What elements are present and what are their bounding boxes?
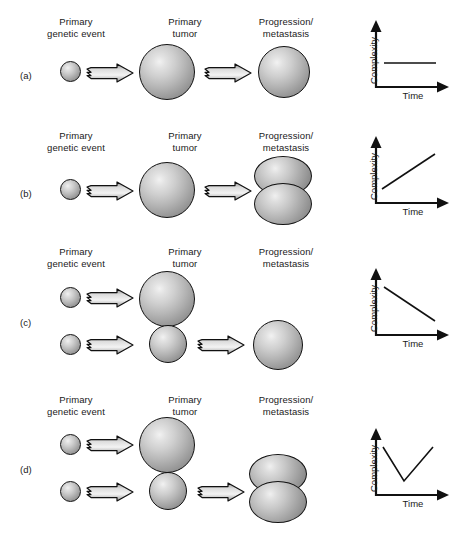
chart-panel-a: Complexity Time xyxy=(355,18,455,102)
panel-d: Primary genetic event Primary tumor Prog… xyxy=(0,378,458,530)
figure-cancer-progression-models: Primary genetic event Primary tumor Prog… xyxy=(0,0,458,540)
sphere-primary-genetic-event-lower xyxy=(60,481,81,502)
column-label-progression-metastasis: Progression/ metastasis xyxy=(231,130,341,153)
chart-y-axis-label-a: Complexity xyxy=(368,37,379,84)
chart-series-line-d xyxy=(383,447,433,481)
double-sphere-lower-lobe xyxy=(249,481,307,523)
sphere-primary-tumor-lower xyxy=(149,472,187,510)
sphere-primary-tumor-lower xyxy=(149,325,187,363)
chart-x-axis-label-d: Time xyxy=(383,498,443,509)
arrow-progression-lower-1 xyxy=(86,335,134,355)
chart-x-axis-label-c: Time xyxy=(383,338,443,349)
sphere-primary-genetic-event-upper xyxy=(60,287,81,308)
sphere-primary-genetic-event xyxy=(60,179,81,200)
sphere-progression-metastasis xyxy=(253,320,303,370)
arrow-progression-2 xyxy=(204,181,252,201)
column-label-progression-metastasis: Progression/ metastasis xyxy=(231,394,341,417)
column-label-primary-tumor: Primary tumor xyxy=(130,16,240,39)
arrow-progression-lower-1 xyxy=(86,482,134,502)
arrow-progression-upper xyxy=(86,435,134,455)
chart-series-line-b xyxy=(382,154,435,189)
arrow-progression-2 xyxy=(204,63,252,83)
sphere-primary-tumor xyxy=(139,44,195,100)
column-label-primary-tumor: Primary tumor xyxy=(130,130,240,153)
panel-letter-c: (c) xyxy=(20,317,31,328)
chart-y-axis-label-d: Complexity xyxy=(368,445,379,492)
double-sphere-lower-lobe xyxy=(254,183,312,225)
panel-a: Primary genetic event Primary tumor Prog… xyxy=(0,0,458,118)
chart-y-axis-label-c: Complexity xyxy=(368,285,379,332)
chart-x-axis-label-b: Time xyxy=(383,206,443,217)
panel-letter-d: (d) xyxy=(20,464,32,475)
sphere-primary-genetic-event xyxy=(60,61,81,82)
arrow-progression-1 xyxy=(86,181,134,201)
column-label-primary-genetic-event: Primary genetic event xyxy=(21,16,131,39)
arrow-progression-1 xyxy=(86,63,134,83)
arrow-progression-lower-2 xyxy=(197,482,245,502)
sphere-progression-metastasis xyxy=(258,46,310,98)
chart-panel-b: Complexity Time xyxy=(355,134,455,218)
arrow-progression-upper xyxy=(86,288,134,308)
arrow-progression-lower-2 xyxy=(197,335,245,355)
panel-b: Primary genetic event Primary tumor Prog… xyxy=(0,118,458,246)
chart-panel-d: Complexity Time xyxy=(355,426,455,510)
chart-y-axis-label-b: Complexity xyxy=(368,153,379,200)
sphere-primary-genetic-event-lower xyxy=(60,334,81,355)
chart-panel-c: Complexity Time xyxy=(355,266,455,350)
chart-x-axis-label-a: Time xyxy=(383,90,443,101)
panel-letter-b: (b) xyxy=(20,188,32,199)
sphere-primary-genetic-event-upper xyxy=(60,434,81,455)
column-label-primary-genetic-event: Primary genetic event xyxy=(21,246,131,269)
chart-series-line-c xyxy=(384,287,435,321)
double-sphere-progression-metastasis xyxy=(249,454,311,524)
double-sphere-progression-metastasis xyxy=(254,156,316,226)
column-label-primary-tumor: Primary tumor xyxy=(130,394,240,417)
column-label-progression-metastasis: Progression/ metastasis xyxy=(231,246,341,269)
sphere-primary-tumor-upper xyxy=(139,271,195,327)
panel-c: Primary genetic event Primary tumor Prog… xyxy=(0,246,458,378)
sphere-primary-tumor-upper xyxy=(139,417,195,473)
sphere-primary-tumor xyxy=(139,162,195,218)
column-label-primary-genetic-event: Primary genetic event xyxy=(21,130,131,153)
column-label-primary-tumor: Primary tumor xyxy=(130,246,240,269)
column-label-primary-genetic-event: Primary genetic event xyxy=(21,394,131,417)
column-label-progression-metastasis: Progression/ metastasis xyxy=(231,16,341,39)
panel-letter-a: (a) xyxy=(20,70,32,81)
